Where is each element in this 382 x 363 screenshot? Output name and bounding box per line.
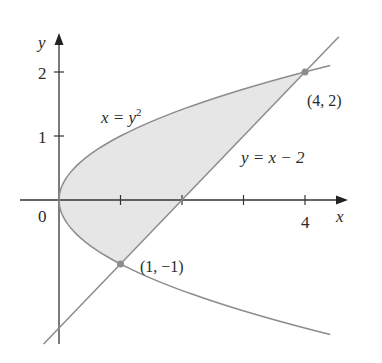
x-axis-arrow-icon (336, 196, 348, 205)
line-label: y = x − 2 (239, 148, 305, 167)
intersection-point-1-neg1 (117, 261, 124, 268)
intersection-point-4-2 (302, 69, 309, 76)
y-axis-arrow-icon (55, 33, 64, 45)
y-tick-label-1: 1 (38, 128, 47, 147)
x-axis-label: x (335, 207, 344, 226)
y-axis-label: y (36, 33, 46, 52)
shaded-region (59, 72, 305, 264)
point-label-4-2: (4, 2) (307, 92, 342, 110)
point-label-1-neg1: (1, −1) (140, 258, 184, 276)
y-tick-label-2: 2 (38, 64, 47, 83)
parabola-label: x = y2 (100, 106, 142, 127)
region-plot: y x 0 2 1 4 x = y2 y = x − 2 (4, 2) (1, … (0, 0, 382, 363)
origin-label: 0 (38, 207, 47, 226)
x-tick-label-4: 4 (301, 213, 310, 232)
